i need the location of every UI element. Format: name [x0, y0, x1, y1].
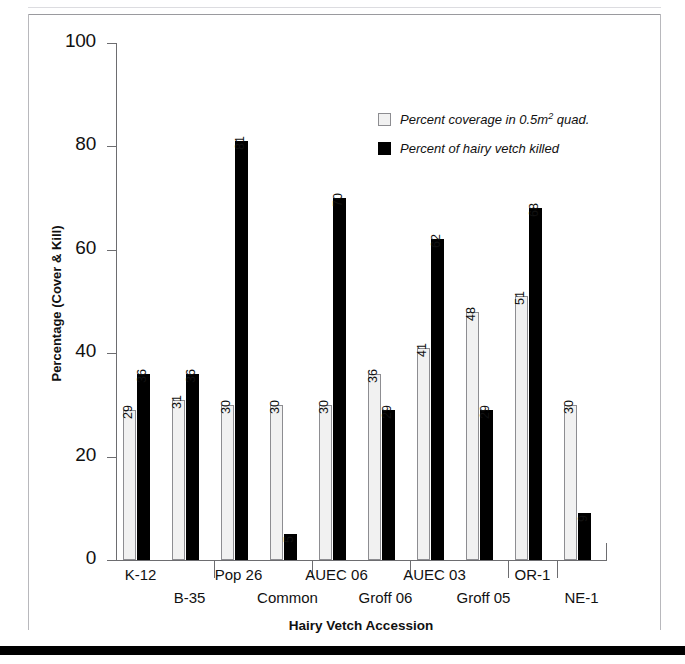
- bar-value-label: 9: [576, 516, 590, 523]
- legend-item-cover: Percent coverage in 0.5m2 quad.: [378, 108, 589, 130]
- bar-value-label: 36: [135, 369, 149, 383]
- bar-cover: [466, 312, 479, 560]
- y-axis-tick: [107, 43, 116, 44]
- bar-value-label: 36: [184, 369, 198, 383]
- x-axis-category-label: Pop 26: [194, 566, 284, 583]
- legend-label-cover-suffix: quad.: [553, 112, 589, 127]
- bar-value-label: 62: [429, 235, 443, 249]
- bar-cover: [123, 410, 136, 560]
- bar-cover: [417, 348, 430, 560]
- y-axis-tick-label: 20: [52, 444, 96, 466]
- bar-kill: [431, 239, 444, 560]
- legend-swatch-kill-icon: [378, 142, 391, 155]
- bar-value-label: 30: [219, 400, 233, 414]
- y-axis-tick: [107, 353, 116, 354]
- bar-value-label: 29: [121, 405, 135, 419]
- bar-value-label: 30: [268, 400, 282, 414]
- bar-kill: [137, 374, 150, 560]
- y-axis-tick-label: 80: [52, 133, 96, 155]
- bar-value-label: 41: [415, 343, 429, 357]
- x-axis-category-label: Groff 06: [341, 589, 431, 606]
- bar-kill: [480, 410, 493, 560]
- y-axis-tick-label: 0: [52, 547, 96, 569]
- x-axis-category-label: K-12: [96, 566, 186, 583]
- bar-value-label: 51: [513, 291, 527, 305]
- bar-kill: [333, 198, 346, 560]
- bar-kill: [235, 141, 248, 560]
- x-axis-category-label: NE-1: [537, 589, 627, 606]
- bar-value-label: 31: [170, 395, 184, 409]
- x-axis-line: [116, 560, 606, 561]
- x-axis-category-label: OR-1: [488, 566, 578, 583]
- x-axis-category-label: AUEC 03: [390, 566, 480, 583]
- y-axis-tick: [107, 250, 116, 251]
- bar-value-label: 36: [366, 369, 380, 383]
- bar-kill: [529, 208, 542, 560]
- x-axis-category-label: Common: [243, 589, 333, 606]
- bar-cover: [564, 405, 577, 560]
- bar-cover: [319, 405, 332, 560]
- bar-cover: [515, 296, 528, 560]
- x-axis-category-label: Groff 05: [439, 589, 529, 606]
- bar-kill: [382, 410, 395, 560]
- bar-value-label: 30: [562, 400, 576, 414]
- legend-label-kill: Percent of hairy vetch killed: [400, 141, 559, 156]
- bar-cover: [221, 405, 234, 560]
- bar-value-label: 30: [317, 400, 331, 414]
- bar-value-label: 68: [527, 204, 541, 218]
- legend-label-cover-prefix: Percent coverage in 0.5m: [400, 112, 548, 127]
- y-axis-tick: [107, 457, 116, 458]
- bar-cover: [172, 400, 185, 560]
- x-axis-category-label: B-35: [145, 589, 235, 606]
- bar-cover: [368, 374, 381, 560]
- legend: Percent coverage in 0.5m2 quad. Percent …: [378, 108, 589, 166]
- x-axis-title: Hairy Vetch Accession: [116, 618, 606, 633]
- bar-value-label: 48: [464, 307, 478, 321]
- x-axis-end-tick: [606, 543, 607, 561]
- y-axis-title: Percentage (Cover & Kill): [49, 204, 64, 404]
- bar-value-label: 81: [233, 136, 247, 150]
- bar-value-label: 5: [282, 536, 296, 543]
- y-axis-tick: [107, 146, 116, 147]
- bar-value-label: 29: [380, 405, 394, 419]
- legend-item-kill: Percent of hairy vetch killed: [378, 137, 589, 159]
- y-axis-tick-label: 100: [52, 30, 96, 52]
- chart-page: 020406080100 293631363081305307036294162…: [0, 0, 685, 664]
- bar-value-label: 29: [478, 405, 492, 419]
- y-axis-tick: [107, 560, 116, 561]
- bar-value-label: 70: [331, 193, 345, 207]
- plot-area: 020406080100 293631363081305307036294162…: [0, 0, 685, 664]
- x-axis-category-label: AUEC 06: [292, 566, 382, 583]
- legend-label-cover: Percent coverage in 0.5m2 quad.: [400, 111, 589, 127]
- legend-swatch-cover-icon: [378, 113, 391, 126]
- bar-kill: [186, 374, 199, 560]
- y-axis-line: [116, 43, 117, 561]
